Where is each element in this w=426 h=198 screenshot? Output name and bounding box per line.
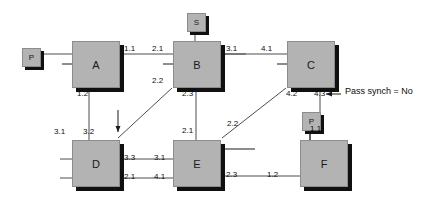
edge-label-f-in-top: 1.1 xyxy=(310,124,321,133)
pass-synch-annotation: Pass synch = No xyxy=(345,86,413,96)
edge-label-b-out-right: 3.1 xyxy=(226,44,237,53)
edge-label-b-out-bot: 2.3 xyxy=(182,89,193,98)
edge-label-e-in-diag: 2.2 xyxy=(227,119,238,128)
edge-label-e-in-right1: 3.1 xyxy=(154,153,165,162)
node-label: B xyxy=(193,59,200,71)
node-label: F xyxy=(321,158,328,170)
node-label: C xyxy=(307,59,315,71)
node-label: E xyxy=(193,158,200,170)
edge-label-c-out-bot: 4.3 xyxy=(314,89,325,98)
edge-label-b-in-diag: 2.2 xyxy=(152,76,163,85)
node-b[interactable]: B xyxy=(173,41,221,88)
edge-c-e-diagonal xyxy=(222,88,286,138)
node-p-source[interactable]: P xyxy=(22,48,41,67)
edge-label-e-in-low: 4.1 xyxy=(154,172,165,181)
diagram-canvas: P S P A B C D E F 1.1 2.1 3.1 4.1 1.2 2.… xyxy=(0,0,426,198)
node-d[interactable]: D xyxy=(72,140,120,187)
node-a[interactable]: A xyxy=(72,41,120,88)
edge-label-e-in-top: 2.1 xyxy=(182,126,193,135)
node-label: A xyxy=(92,59,99,71)
edge-label-c-out-diag: 4.2 xyxy=(286,89,297,98)
edge-label-f-in-left: 1.2 xyxy=(267,170,278,179)
node-label: D xyxy=(92,158,100,170)
edge-label-d-in-left: 3.1 xyxy=(54,127,65,136)
edge-label-a-out-bot: 1.2 xyxy=(77,89,88,98)
edge-label-a-out-top: 1.1 xyxy=(124,44,135,53)
node-c[interactable]: C xyxy=(287,41,335,88)
node-label: S xyxy=(194,18,199,27)
edge-b-d-diagonal xyxy=(118,88,172,138)
node-label: P xyxy=(29,53,34,62)
node-e[interactable]: E xyxy=(173,140,221,187)
edge-label-e-out-right: 2.3 xyxy=(226,170,237,179)
edge-label-b-in-top: 2.1 xyxy=(152,44,163,53)
node-s-source[interactable]: S xyxy=(187,13,206,32)
edge-label-d-in-top: 3.2 xyxy=(83,127,94,136)
edge-label-c-in-left: 4.1 xyxy=(261,44,272,53)
node-f[interactable]: F xyxy=(300,140,348,187)
edge-label-d-out-up: 3.3 xyxy=(124,153,135,162)
edge-label-d-out-low: 2.1 xyxy=(124,172,135,181)
